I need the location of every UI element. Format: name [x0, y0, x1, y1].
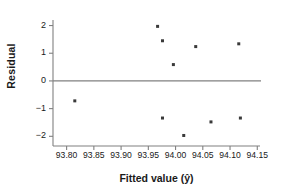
data-point [209, 120, 212, 123]
y-tick-label: 0 [26, 76, 46, 85]
y-tick-label: 1 [26, 48, 46, 57]
data-point [161, 117, 164, 120]
y-axis-tick-marks [49, 26, 53, 137]
y-tick-label: −1 [26, 104, 46, 113]
data-point [73, 99, 76, 102]
x-axis-tick-labels: 93.8093.8593.9093.9594.0094.0594.1094.15 [0, 151, 281, 165]
x-tick-label: 94.15 [237, 151, 277, 160]
residual-plot-figure: 210−1−2 93.8093.8593.9093.9594.0094.0594… [0, 0, 281, 193]
axis-spines [53, 20, 260, 146]
data-point [182, 134, 185, 137]
data-point [161, 39, 164, 42]
data-point [172, 63, 175, 66]
data-point [239, 117, 242, 120]
y-tick-label: −2 [26, 131, 46, 140]
data-point [156, 25, 159, 28]
x-axis-title: Fitted value (ŷ) [53, 172, 260, 184]
y-axis-title: Residual [5, 31, 17, 101]
data-point [237, 42, 240, 45]
data-point [194, 45, 197, 48]
y-tick-label: 2 [26, 21, 46, 30]
